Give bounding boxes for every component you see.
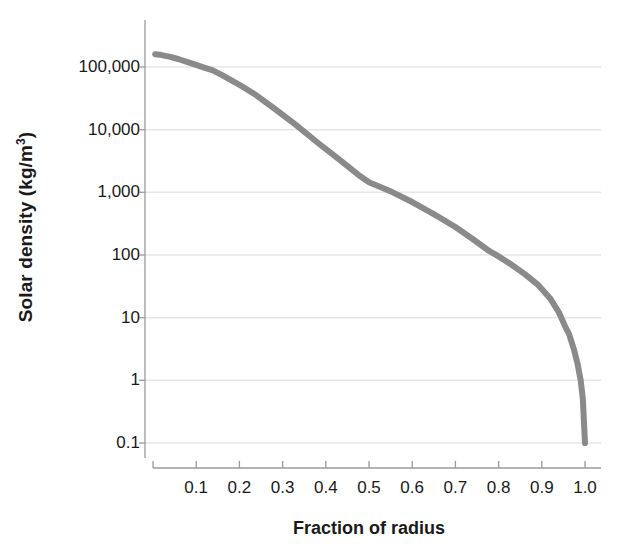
plot-area (0, 0, 618, 554)
chart-figure: Solar density (kg/m3) 100,000 10,000 1,0… (0, 0, 618, 554)
gridlines (145, 67, 601, 443)
density-curve (155, 54, 585, 443)
y-axis-line-group (139, 20, 145, 458)
x-axis-line-group (153, 461, 601, 468)
